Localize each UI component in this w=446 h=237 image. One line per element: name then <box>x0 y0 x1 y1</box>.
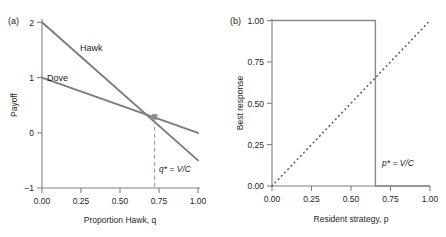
panel-a-letter: (a) <box>8 16 19 26</box>
panel-a-x-axis-title: Proportion Hawk, q <box>84 215 157 225</box>
panel-b-xtick-label-0: 0.00 <box>264 194 281 204</box>
panel-b-ytick-label-075: 0.75 <box>247 57 264 67</box>
panel-a-dove-label: Dove <box>47 73 68 83</box>
panel-a-ytick-label-2: 2 <box>29 18 34 28</box>
panel-a-xtick-label-1: 0.25 <box>73 196 90 206</box>
panel-a-ytick-label-0: 0 <box>29 128 34 138</box>
panel-b-letter: (b) <box>230 16 241 26</box>
panel-a-ytick-label-minus1: −1 <box>24 183 34 193</box>
panel-b-xtick-label-1: 0.25 <box>303 194 320 204</box>
figure-container: (a) 2 1 0 −1 0.00 0.25 0.50 0.75 1.00 <box>0 0 446 237</box>
panel-a-y-axis-title: Payoff <box>9 92 19 117</box>
panel-b-equilibrium-annotation: p* = V/C <box>381 158 415 168</box>
panel-a-equilibrium-marker <box>152 114 158 120</box>
panel-b-ytick-label-000: 0.00 <box>247 181 264 191</box>
panel-a-equilibrium-annotation: q* = V/C <box>159 164 192 174</box>
panel-b-x-axis-title: Resident strategy, p <box>314 214 389 224</box>
panel-a-dove-line <box>42 78 198 133</box>
figure-svg: (a) 2 1 0 −1 0.00 0.25 0.50 0.75 1.00 <box>0 0 446 237</box>
panel-a-xtick-label-3: 0.75 <box>151 196 168 206</box>
panel-a-xtick-label-4: 1.00 <box>190 196 207 206</box>
panel-b-xtick-label-3: 0.75 <box>382 194 399 204</box>
panel-b-y-axis-title: Best response <box>235 76 245 131</box>
panel-b-xtick-label-4: 1.00 <box>422 194 439 204</box>
panel-a-ytick-label-1: 1 <box>29 73 34 83</box>
panel-a-xtick-label-0: 0.00 <box>34 196 51 206</box>
panel-b-ytick-label-050: 0.50 <box>247 99 264 109</box>
panel-a-hawk-label: Hawk <box>80 43 103 53</box>
panel-b: (b) 1.00 0.75 0.50 0.25 0.00 0.00 0.25 0… <box>230 16 439 224</box>
panel-b-xtick-label-2: 0.50 <box>343 194 360 204</box>
panel-b-ytick-label-100: 1.00 <box>247 16 264 26</box>
panel-a: (a) 2 1 0 −1 0.00 0.25 0.50 0.75 1.00 <box>8 16 207 225</box>
panel-a-hawk-line <box>42 22 198 160</box>
panel-b-ytick-label-025: 0.25 <box>247 140 264 150</box>
panel-a-xtick-label-2: 0.50 <box>112 196 129 206</box>
